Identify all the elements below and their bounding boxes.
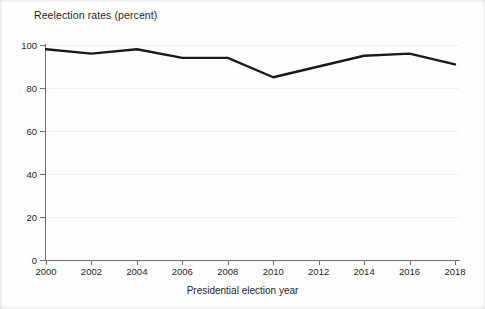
x-axis-tick-label: 2012	[308, 266, 329, 277]
x-axis-tick	[273, 261, 274, 265]
line-series-layer	[0, 0, 485, 309]
x-axis-tick	[91, 261, 92, 265]
x-axis-tick	[228, 261, 229, 265]
x-axis-tick-label: 2000	[35, 266, 56, 277]
x-axis-tick-label: 2016	[399, 266, 420, 277]
chart-page: Reelection rates (percent) 020406080100 …	[0, 0, 485, 309]
x-axis-tick-label: 2002	[81, 266, 102, 277]
x-axis-tick	[455, 261, 456, 265]
y-axis-tick	[40, 260, 45, 261]
x-axis-tick-label: 2004	[126, 266, 147, 277]
x-axis-tick	[410, 261, 411, 265]
y-axis-tick	[40, 131, 45, 132]
x-axis-tick	[46, 261, 47, 265]
reelection-rate-line	[46, 49, 455, 77]
x-axis-tick	[319, 261, 320, 265]
y-axis-tick	[40, 217, 45, 218]
x-axis-tick-label: 2018	[444, 266, 465, 277]
y-axis-tick	[40, 45, 45, 46]
x-axis-tick	[182, 261, 183, 265]
x-axis-tick	[364, 261, 365, 265]
x-axis-tick-label: 2008	[217, 266, 238, 277]
x-axis-tick-label: 2010	[263, 266, 284, 277]
x-axis-tick-label: 2014	[354, 266, 375, 277]
y-axis-tick	[40, 174, 45, 175]
y-axis-tick	[40, 88, 45, 89]
x-axis-tick	[137, 261, 138, 265]
x-axis-tick-label: 2006	[172, 266, 193, 277]
x-axis-title: Presidential election year	[0, 285, 485, 296]
